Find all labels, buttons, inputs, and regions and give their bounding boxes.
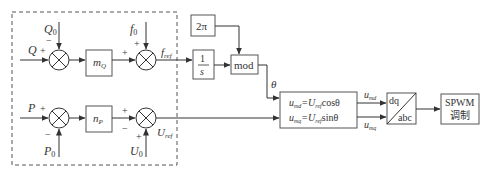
umd-label: umd	[364, 89, 377, 101]
integrator-numerator: 1	[200, 53, 205, 64]
integrator-denominator: s	[200, 66, 204, 77]
u0-plus-sign: +	[136, 131, 142, 142]
f0-plus-sign: +	[134, 38, 140, 49]
uref-label: Uref	[157, 126, 174, 140]
q0-minus-sign: −	[46, 35, 52, 46]
two-pi-to-mod-line	[215, 26, 239, 54]
abc-label: abc	[398, 112, 412, 123]
dq-label: dq	[389, 95, 399, 106]
mq-plus-sign: +	[122, 47, 128, 58]
p0-minus-sign: −	[45, 129, 51, 140]
theta-label: θ	[271, 78, 277, 90]
u0-label: U0	[130, 144, 143, 159]
p-label: P	[27, 101, 36, 115]
summing-junction-q	[49, 50, 69, 70]
spwm-modulation-label: 调制	[450, 109, 470, 121]
mod-label: mod	[234, 59, 254, 71]
summing-junction-f	[136, 50, 156, 70]
np-minus-sign: −	[122, 123, 128, 134]
q-plus-sign: +	[40, 45, 46, 56]
umq-label: umq	[364, 119, 376, 131]
two-pi-label: 2π	[196, 20, 208, 32]
f0-label: f0	[130, 22, 137, 37]
control-block-diagram: Q + Q0 − mQ + f0 + fref 1 s 2π mod θ P +	[0, 0, 488, 175]
p-plus-sign: +	[40, 103, 46, 114]
spwm-label: SPWM	[445, 97, 475, 108]
p0-label: P0	[43, 144, 55, 159]
q-label: Q	[28, 43, 37, 57]
summing-junction-p	[49, 108, 69, 128]
droop-control-region	[12, 12, 177, 165]
summing-junction-u	[136, 108, 156, 128]
np-plus-sign: +	[122, 105, 128, 116]
fref-label: fref	[161, 46, 173, 60]
